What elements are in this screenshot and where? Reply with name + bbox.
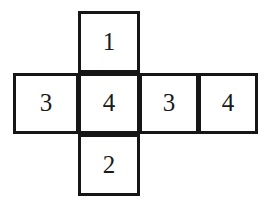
net-square-label: 3 (40, 90, 53, 115)
net-square-label: 1 (103, 29, 116, 54)
net-square-label: 4 (222, 90, 235, 115)
net-square-middle-1: 3 (13, 73, 79, 134)
net-square-middle-3: 3 (139, 73, 199, 134)
diagram-canvas: 1 3 4 3 4 2 (0, 0, 265, 209)
net-square-label: 2 (103, 152, 116, 177)
net-square-middle-2: 4 (78, 73, 140, 134)
net-square-top: 1 (78, 11, 140, 73)
net-square-bottom: 2 (78, 134, 140, 196)
net-square-label: 4 (103, 90, 116, 115)
net-square-label: 3 (163, 90, 176, 115)
net-square-middle-4: 4 (198, 73, 258, 134)
